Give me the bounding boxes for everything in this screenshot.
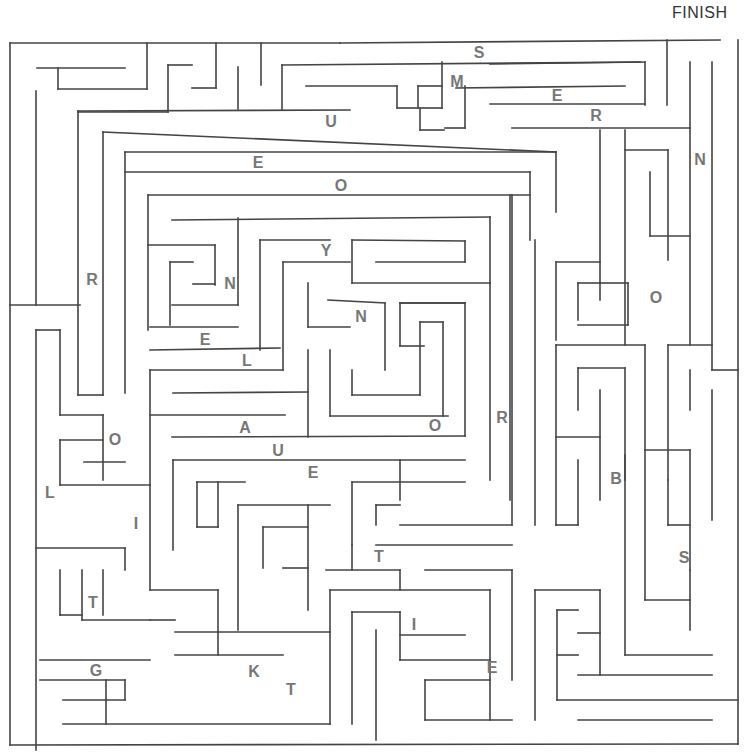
maze-letter: O bbox=[429, 418, 441, 434]
maze-wall bbox=[328, 300, 385, 303]
maze-letter: R bbox=[86, 272, 98, 288]
maze-letter: N bbox=[224, 276, 236, 292]
maze-letter: I bbox=[134, 516, 138, 532]
maze-letter: L bbox=[242, 353, 252, 369]
maze-letter: T bbox=[374, 549, 384, 565]
maze-letter: G bbox=[90, 663, 102, 679]
maze-letter: A bbox=[239, 420, 251, 436]
finish-label: FINISH bbox=[672, 4, 727, 22]
maze-letter: T bbox=[286, 682, 296, 698]
maze-letter: R bbox=[590, 108, 602, 124]
maze-letter: E bbox=[487, 660, 498, 676]
maze-wall bbox=[172, 436, 465, 437]
maze-wall bbox=[10, 744, 738, 745]
maze-wall bbox=[172, 217, 490, 220]
maze-letter: E bbox=[200, 332, 211, 348]
maze-wall bbox=[78, 110, 350, 111]
maze-letter: S bbox=[474, 45, 485, 61]
maze-wall bbox=[456, 86, 625, 88]
maze-letter: B bbox=[610, 471, 622, 487]
maze-letter: N bbox=[355, 309, 367, 325]
maze-letter: T bbox=[88, 595, 98, 611]
maze-letter: N bbox=[694, 152, 706, 168]
maze-wall bbox=[103, 132, 556, 152]
maze-walls bbox=[0, 0, 748, 754]
maze-letter: U bbox=[325, 114, 337, 130]
maze-letter: K bbox=[248, 664, 260, 680]
maze-letter: L bbox=[45, 485, 55, 501]
maze-letter: R bbox=[496, 410, 508, 426]
maze-letter: U bbox=[272, 443, 284, 459]
maze-letter: M bbox=[450, 74, 463, 90]
maze-letter: E bbox=[552, 88, 563, 104]
maze-letter: S bbox=[679, 550, 690, 566]
maze-wall bbox=[173, 392, 308, 393]
maze-letter: I bbox=[412, 617, 416, 633]
maze-wall bbox=[352, 240, 465, 241]
maze-letter: O bbox=[650, 290, 662, 306]
maze-letter: O bbox=[109, 432, 121, 448]
maze-letter: E bbox=[253, 155, 264, 171]
maze-wall bbox=[340, 40, 720, 43]
maze-letter: Y bbox=[321, 243, 332, 259]
maze-letter: E bbox=[308, 465, 319, 481]
maze-letter: O bbox=[335, 178, 347, 194]
